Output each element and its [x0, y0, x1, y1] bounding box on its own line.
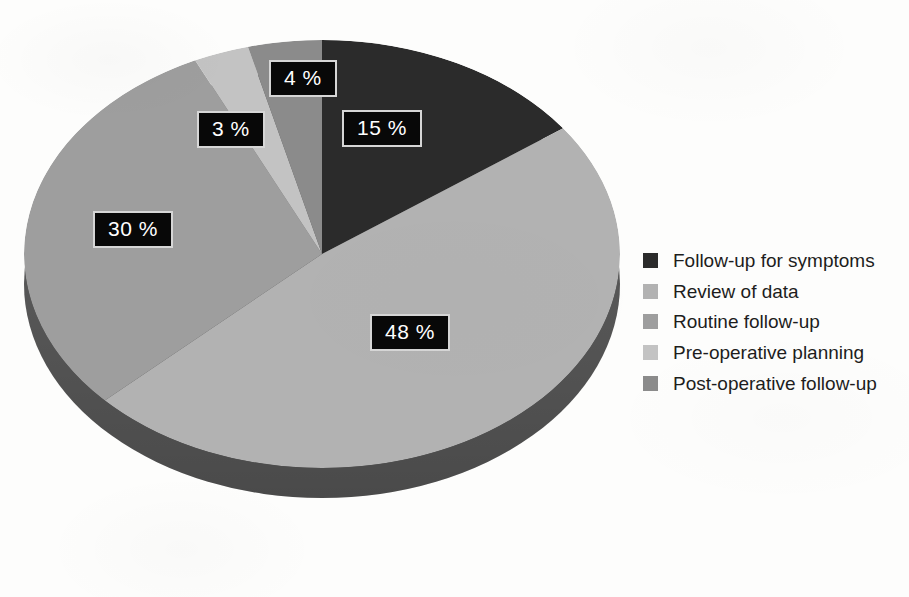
- legend-item-label: Review of data: [673, 280, 799, 305]
- pie-chart-figure: 15 % 48 % 30 % 3 % 4 % Follow-up for sym…: [0, 0, 909, 597]
- pie-slices-svg: [24, 40, 620, 468]
- legend-swatch-icon: [643, 253, 658, 268]
- legend-swatch-icon: [643, 314, 658, 329]
- legend-item-label: Pre-operative planning: [673, 341, 864, 366]
- chart-legend: Follow-up for symptoms Review of data Ro…: [643, 249, 901, 402]
- slice-value-label-follow-up-for-symptoms: 15 %: [342, 110, 422, 147]
- slice-value-label-pre-operative-planning: 3 %: [197, 111, 265, 148]
- legend-item-label: Post-operative follow-up: [673, 372, 877, 397]
- legend-item: Routine follow-up: [643, 310, 901, 335]
- legend-item-label: Follow-up for symptoms: [673, 249, 875, 274]
- pie-chart: 15 % 48 % 30 % 3 % 4 %: [10, 14, 630, 534]
- legend-swatch-icon: [643, 345, 658, 360]
- legend-swatch-icon: [643, 284, 658, 299]
- slice-value-label-routine-follow-up: 30 %: [93, 211, 173, 248]
- slice-value-label-review-of-data: 48 %: [370, 314, 450, 351]
- legend-item: Pre-operative planning: [643, 341, 901, 366]
- legend-item: Follow-up for symptoms: [643, 249, 901, 274]
- legend-item: Review of data: [643, 280, 901, 305]
- legend-item: Post-operative follow-up: [643, 372, 901, 397]
- slice-value-label-post-operative-follow-up: 4 %: [269, 60, 337, 97]
- pie-top-face: [24, 40, 620, 468]
- legend-swatch-icon: [643, 376, 658, 391]
- legend-item-label: Routine follow-up: [673, 310, 820, 335]
